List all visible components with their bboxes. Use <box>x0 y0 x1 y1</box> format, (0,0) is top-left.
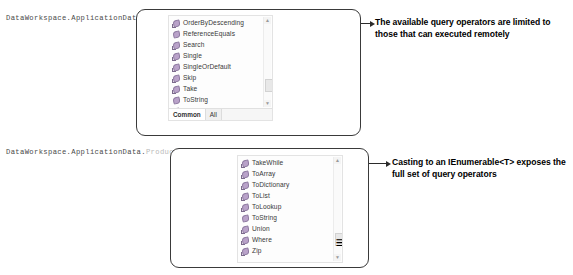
annotation-text-1: The available query operators are limite… <box>375 17 570 40</box>
completion-list-item[interactable]: Where <box>238 234 342 245</box>
completion-list-scrollbar[interactable]: ▲ ▼ <box>263 17 271 107</box>
completion-item-label: Where <box>252 236 272 243</box>
extension-method-icon <box>241 192 249 200</box>
completion-list-item[interactable]: Search <box>169 39 272 50</box>
completion-list-item[interactable]: Zip <box>238 245 342 256</box>
completion-item-label: Union <box>252 225 270 232</box>
completion-list-item[interactable]: ToLookup <box>238 201 342 212</box>
scrollbar-thumb[interactable]: ≡ <box>335 233 343 246</box>
completion-list-products[interactable]: OrderByDescendingReferenceEqualsSearchSi… <box>168 15 273 121</box>
completion-item-label: OrderByDescending <box>183 19 244 26</box>
extension-method-icon <box>241 203 249 211</box>
scroll-up-arrow-icon[interactable]: ▲ <box>334 157 341 164</box>
scroll-down-arrow-icon[interactable]: ▼ <box>264 100 271 107</box>
completion-item-label: ToString <box>183 96 208 103</box>
tab-common[interactable]: Common <box>169 109 206 120</box>
scroll-up-arrow-icon[interactable]: ▲ <box>264 17 271 24</box>
scroll-down-arrow-icon[interactable]: ▼ <box>334 254 341 261</box>
completion-item-label: SingleOrDefault <box>183 63 231 70</box>
extension-method-icon <box>241 225 249 233</box>
completion-list-item[interactable]: Where <box>169 105 272 108</box>
callout-arrowhead-2 <box>386 161 391 167</box>
method-icon <box>172 96 180 104</box>
completion-list-item[interactable]: ToArray <box>238 168 342 179</box>
extension-method-icon <box>172 41 180 49</box>
extension-method-icon <box>241 247 249 255</box>
completion-item-label: ToList <box>252 192 270 199</box>
scrollbar-thumb[interactable] <box>265 79 273 92</box>
annotation-text-2: Casting to an IEnumerable<T> exposes the… <box>392 157 572 180</box>
completion-list-item[interactable]: ToString <box>238 212 342 223</box>
completion-list-item[interactable]: TakeWhile <box>238 157 342 168</box>
completion-item-label: Search <box>183 41 205 48</box>
completion-list-item[interactable]: Take <box>169 83 272 94</box>
completion-list-tabs[interactable]: Common All <box>169 108 272 120</box>
completion-list-rows[interactable]: OrderByDescendingReferenceEqualsSearchSi… <box>169 16 272 108</box>
completion-list-item[interactable]: ReferenceEquals <box>169 28 272 39</box>
extension-method-icon <box>241 170 249 178</box>
completion-list-item[interactable]: Single <box>169 50 272 61</box>
code-segment: DataWorkspace.ApplicationData. <box>6 148 146 156</box>
completion-item-label: Zip <box>252 247 261 254</box>
completion-item-label: ToArray <box>252 170 275 177</box>
completion-list-scrollbar[interactable]: ▲ ≡ ▼ <box>333 157 341 261</box>
completion-list-item[interactable]: SingleOrDefault <box>169 61 272 72</box>
completion-list-item[interactable]: Union <box>238 223 342 234</box>
method-icon <box>172 30 180 38</box>
completion-item-label: Skip <box>183 74 196 81</box>
completion-item-label: ReferenceEquals <box>183 30 235 37</box>
tab-all[interactable]: All <box>206 109 222 120</box>
extension-method-icon <box>172 63 180 71</box>
extension-method-icon <box>172 19 180 27</box>
completion-item-label: ToLookup <box>252 203 281 210</box>
completion-item-label: ToString <box>252 214 277 221</box>
completion-list-item[interactable]: OrderByDescending <box>169 17 272 28</box>
completion-item-label: TakeWhile <box>252 159 283 166</box>
completion-item-label: Take <box>183 85 197 92</box>
callout-line-2 <box>369 163 387 164</box>
extension-method-icon <box>172 74 180 82</box>
completion-list-item[interactable]: Skip <box>169 72 272 83</box>
extension-method-icon <box>172 107 180 109</box>
tab-filler <box>222 109 272 120</box>
completion-list-item[interactable]: ToDictionary <box>238 179 342 190</box>
extension-method-icon <box>241 181 249 189</box>
completion-list-item[interactable]: ToString <box>169 94 272 105</box>
extension-method-icon <box>172 85 180 93</box>
completion-list-rows[interactable]: TakeWhileToArrayToDictionaryToListToLook… <box>238 156 342 262</box>
extension-method-icon <box>241 159 249 167</box>
method-icon <box>241 214 249 222</box>
completion-item-label: Single <box>183 52 202 59</box>
completion-list-cast[interactable]: TakeWhileToArrayToDictionaryToListToLook… <box>237 155 343 263</box>
extension-method-icon <box>172 52 180 60</box>
completion-list-item[interactable]: ToList <box>238 190 342 201</box>
completion-item-label: ToDictionary <box>252 181 289 188</box>
completion-item-label: Where <box>183 107 203 108</box>
extension-method-icon <box>241 236 249 244</box>
